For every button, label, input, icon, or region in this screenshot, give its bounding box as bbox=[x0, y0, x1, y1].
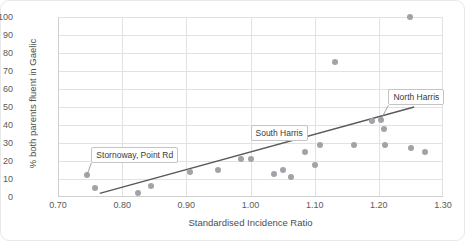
y-tick-label: 40 bbox=[0, 121, 13, 130]
data-point[interactable] bbox=[302, 149, 308, 155]
trendline bbox=[58, 17, 443, 197]
data-point[interactable] bbox=[271, 171, 277, 177]
x-tick-label: 1.00 bbox=[231, 201, 271, 210]
y-tick-label: 20 bbox=[0, 157, 13, 166]
x-tick-label: 1.10 bbox=[295, 201, 335, 210]
y-tick-label: 50 bbox=[0, 103, 13, 112]
data-point[interactable] bbox=[187, 169, 193, 175]
y-tick-label: 100 bbox=[0, 13, 13, 22]
scatter-chart-card: % both parents fluent in Gaelic Standard… bbox=[0, 0, 465, 241]
data-point[interactable] bbox=[280, 167, 286, 173]
callout-label[interactable]: Stornoway, Point Rd bbox=[91, 147, 178, 163]
data-point[interactable] bbox=[407, 14, 413, 20]
x-tick-label: 0.80 bbox=[102, 201, 142, 210]
data-point[interactable] bbox=[381, 126, 387, 132]
y-axis-title: % both parents fluent in Gaelic bbox=[27, 19, 38, 189]
data-point[interactable] bbox=[317, 142, 323, 148]
callout-label[interactable]: South Harris bbox=[251, 125, 308, 141]
y-tick-label: 80 bbox=[0, 49, 13, 58]
x-axis-title: Standardised Incidence Ratio bbox=[58, 217, 443, 228]
data-point[interactable] bbox=[378, 117, 384, 123]
data-point[interactable] bbox=[135, 190, 141, 196]
plot-area bbox=[58, 17, 443, 197]
y-tick-label: 70 bbox=[0, 67, 13, 76]
data-point[interactable] bbox=[422, 149, 428, 155]
x-tick-label: 1.20 bbox=[359, 201, 399, 210]
x-tick-label: 0.70 bbox=[38, 201, 78, 210]
data-point[interactable] bbox=[92, 185, 98, 191]
data-point[interactable] bbox=[248, 156, 254, 162]
data-point[interactable] bbox=[312, 162, 318, 168]
x-tick-label: 1.30 bbox=[423, 201, 463, 210]
y-tick-label: 0 bbox=[0, 193, 13, 202]
y-tick-label: 10 bbox=[0, 175, 13, 184]
y-tick-label: 90 bbox=[0, 31, 13, 40]
data-point[interactable] bbox=[332, 59, 338, 65]
y-tick-label: 30 bbox=[0, 139, 13, 148]
y-tick-label: 60 bbox=[0, 85, 13, 94]
x-tick-label: 0.90 bbox=[166, 201, 206, 210]
callout-label[interactable]: North Harris bbox=[388, 89, 444, 105]
